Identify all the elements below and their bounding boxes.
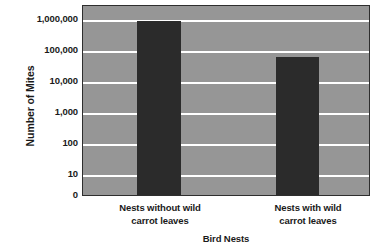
x-category-label-1-line1: Nests with wild — [238, 201, 375, 214]
y-tick-label-100: 100 — [0, 138, 78, 148]
x-axis-title: Bird Nests — [82, 233, 370, 244]
y-tick-label-0: 0 — [0, 190, 78, 200]
x-category-label-0-line2: carrot leaves — [90, 214, 230, 227]
gridline-100000 — [83, 51, 369, 53]
x-category-label-0: Nests without wild carrot leaves — [90, 201, 230, 227]
gridline-10 — [83, 175, 369, 177]
gridline-1000 — [83, 113, 369, 115]
x-category-label-0-line1: Nests without wild — [90, 201, 230, 214]
gridline-10000 — [83, 82, 369, 84]
y-tick-label-10: 10 — [0, 169, 78, 179]
y-tick-label-1000000: 1,000,000 — [0, 14, 78, 24]
bar-nests-with-wild-carrot-leaves — [276, 57, 319, 195]
y-tick-label-1000: 1,000 — [0, 107, 78, 117]
y-tick-label-100000: 100,000 — [0, 45, 78, 55]
gridline-100 — [83, 144, 369, 146]
plot-area — [82, 5, 370, 196]
y-tick-label-10000: 10,000 — [0, 76, 78, 86]
gridline-1000000 — [83, 20, 369, 22]
bar-nests-without-wild-carrot-leaves — [137, 21, 181, 195]
bar-chart: Number of Mites 1,000,000 100,000 10,000… — [0, 0, 375, 252]
x-category-label-1: Nests with wild carrot leaves — [238, 201, 375, 227]
x-category-label-1-line2: carrot leaves — [238, 214, 375, 227]
